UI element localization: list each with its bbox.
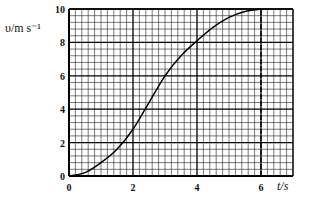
y-tick-label: 10 (55, 4, 65, 15)
grid-major (69, 9, 293, 176)
x-tick-label: 4 (195, 182, 200, 193)
y-tick-label: 2 (60, 138, 65, 149)
x-tick-label: 6 (259, 182, 264, 193)
x-axis-label: t/s (277, 179, 289, 193)
y-tick-labels: 0246810 (55, 4, 65, 182)
y-tick-label: 4 (60, 104, 65, 115)
grid-minor (69, 9, 293, 176)
x-tick-label: 0 (67, 182, 72, 193)
axes (69, 9, 293, 176)
y-tick-label: 8 (60, 37, 65, 48)
x-tick-labels: 0246 (67, 182, 264, 193)
y-tick-label: 6 (60, 71, 65, 82)
y-axis-label: υ/m s⁻¹ (5, 21, 41, 35)
x-tick-label: 2 (131, 182, 136, 193)
y-tick-label: 0 (60, 171, 65, 182)
velocity-time-chart: 0246 0246810 υ/m s⁻¹ t/s (0, 0, 309, 200)
